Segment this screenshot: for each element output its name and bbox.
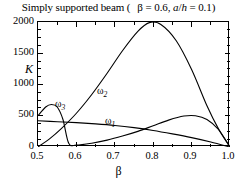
omega3-subscript: 3 xyxy=(62,103,66,112)
chart-title-param1: β = 0.6, xyxy=(137,1,170,13)
chart-title-main: Simply supported beam ( xyxy=(22,1,131,13)
x-tick-0-7: 0.7 xyxy=(98,150,128,161)
curve-label-omega1: ω1 xyxy=(105,116,115,130)
omega3-symbol: ω xyxy=(55,98,62,109)
y-tick-2000: 2000 xyxy=(1,16,34,26)
chart-title: Simply supported beam (β = 0.6, a/h = 0.… xyxy=(0,1,237,13)
plot-area xyxy=(37,21,229,146)
curve-ω3 xyxy=(38,105,230,148)
curves-group xyxy=(38,22,230,147)
y-tick-1000: 1000 xyxy=(1,78,34,88)
omega2-subscript: 2 xyxy=(104,90,108,99)
y-tick-500: 500 xyxy=(1,109,34,119)
x-tick-0-5: 0.5 xyxy=(22,150,52,161)
y-tick-1500: 1500 xyxy=(1,47,34,57)
x-tick-0-9: 0.9 xyxy=(175,150,205,161)
x-axis-title: β xyxy=(0,164,237,179)
curve-label-omega3: ω3 xyxy=(55,99,65,113)
x-tick-0-8: 0.8 xyxy=(137,150,167,161)
y-axis-title: K xyxy=(0,62,33,77)
plot-svg xyxy=(38,22,230,147)
axis-ticks xyxy=(38,22,230,147)
curve-label-omega2: ω2 xyxy=(97,86,107,100)
chart-page: Simply supported beam (β = 0.6, a/h = 0.… xyxy=(0,0,237,181)
curve-ω2 xyxy=(38,22,230,147)
chart-title-param2-val: = 0.1) xyxy=(187,1,215,13)
x-tick-0-6: 0.6 xyxy=(60,150,90,161)
omega1-subscript: 1 xyxy=(112,120,116,129)
curve-ω1 xyxy=(38,121,230,147)
omega2-symbol: ω xyxy=(97,85,104,96)
x-tick-1-0: 1.0 xyxy=(213,150,237,161)
omega1-symbol: ω xyxy=(105,115,112,126)
